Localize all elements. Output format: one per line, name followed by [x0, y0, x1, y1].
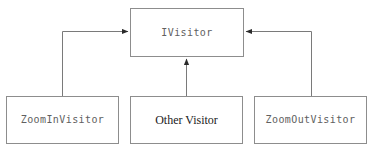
node-ivisitor-label: IVisitor	[161, 28, 212, 38]
node-other-visitor[interactable]: Other Visitor	[130, 96, 243, 144]
node-zoomoutvisitor[interactable]: ZoomOutVisitor	[254, 96, 367, 144]
edge-zoomout-to-ivisitor	[246, 32, 312, 97]
node-zoominvisitor-label: ZoomInVisitor	[21, 115, 104, 125]
node-ivisitor[interactable]: IVisitor	[130, 8, 244, 57]
node-zoominvisitor[interactable]: ZoomInVisitor	[6, 96, 119, 144]
node-other-visitor-label: Other Visitor	[155, 114, 218, 126]
edge-zoomin-to-ivisitor	[63, 32, 129, 97]
node-zoomoutvisitor-label: ZoomOutVisitor	[266, 115, 356, 125]
uml-diagram-canvas: IVisitor ZoomInVisitor Other Visitor Zoo…	[0, 0, 370, 154]
